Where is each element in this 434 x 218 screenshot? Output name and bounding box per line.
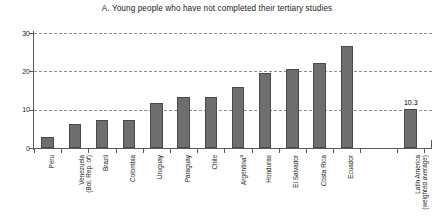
x-axis-label-footnote: a [239, 155, 244, 158]
y-tick-label-30: 30 [8, 30, 30, 37]
x-tick-mark [197, 148, 198, 153]
x-tick-mark [279, 148, 280, 153]
bar [177, 97, 190, 148]
y-tick-mark-30 [29, 33, 34, 34]
y-tick-mark-20 [29, 71, 34, 72]
x-axis-label: Brazil [102, 155, 109, 171]
bar [69, 124, 82, 148]
x-axis-label-line1: Brazil [102, 155, 109, 171]
x-tick-mark [252, 148, 253, 153]
x-axis-label-line2: (Bol. Rep. of) [86, 155, 93, 193]
x-tick-mark [61, 148, 62, 153]
bar-data-label: 10.3 [397, 99, 424, 107]
x-axis-label-line1: Ecuador [347, 155, 354, 179]
x-axis-label: Uruguay [156, 155, 163, 179]
bar [286, 69, 299, 148]
chart-title: A. Young people who have not completed t… [0, 4, 434, 13]
x-axis-label-line1: El Salvador [292, 155, 299, 188]
y-tick-label-20: 20 [8, 68, 30, 75]
x-tick-mark [116, 148, 117, 153]
x-tick-mark [306, 148, 307, 153]
y-tick-mark-10 [29, 110, 34, 111]
x-tick-mark [143, 148, 144, 153]
x-tick-mark [34, 148, 35, 153]
x-axis-label: Argentinaa [238, 155, 247, 185]
x-axis-label: El Salvador [292, 155, 299, 188]
bar [341, 46, 354, 148]
x-axis-label: Venezuela(Bol. Rep. of) [78, 155, 92, 193]
x-axis-label: Chile [211, 155, 218, 170]
x-axis-label-line1: Paraguay [184, 155, 191, 182]
x-axis-label-line1: Argentina [240, 158, 247, 185]
bar [259, 73, 272, 148]
x-axis-label-line1: Costa Rica [320, 155, 327, 186]
x-axis-label: Honduras [265, 155, 272, 183]
y-tick-label-0: 0 [8, 145, 30, 152]
x-axis-label-line1: Chile [211, 155, 218, 170]
x-axis-label: Paraguay [184, 155, 191, 182]
y-tick-label-10: 10 [8, 106, 30, 113]
x-axis-label: Peru [48, 155, 55, 169]
bar [205, 97, 218, 148]
x-tick-mark [170, 148, 171, 153]
x-axis-label: Latin America(weighted average) [414, 155, 428, 210]
x-tick-mark [424, 148, 425, 153]
gridline-30 [34, 33, 432, 34]
y-axis-tick-labels: 0102030 [0, 0, 30, 218]
x-tick-mark [333, 148, 334, 153]
x-axis-label-line1: Peru [48, 155, 55, 169]
plot-area [34, 33, 432, 148]
bar [96, 120, 109, 148]
x-axis-label: Colombia [129, 155, 136, 182]
bar [313, 63, 326, 148]
chart-container: A. Young people who have not completed t… [0, 0, 434, 218]
x-axis-label-line1: Colombia [129, 155, 136, 182]
gridline-20 [34, 71, 432, 72]
bar [150, 103, 163, 148]
x-tick-mark [224, 148, 225, 153]
x-tick-mark [88, 148, 89, 153]
bar [41, 137, 54, 148]
x-tick-mark [360, 148, 361, 153]
x-axis-label: Costa Rica [320, 155, 327, 186]
x-axis-line [33, 148, 432, 149]
bar [123, 120, 136, 148]
x-axis-label-line2: (weighted average) [422, 155, 429, 210]
bar [232, 87, 245, 148]
x-axis-label-line1: Uruguay [156, 155, 163, 179]
x-axis-label-line1: Honduras [265, 155, 272, 183]
x-tick-mark [397, 148, 398, 153]
x-axis-label: Ecuador [347, 155, 354, 179]
bar [404, 109, 417, 148]
